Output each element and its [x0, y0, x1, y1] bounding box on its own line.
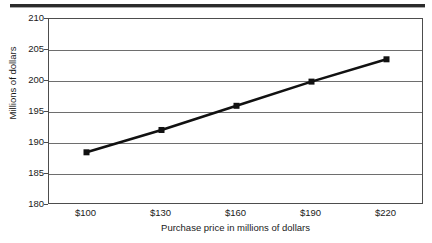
data-point-marker [159, 127, 165, 133]
y-axis-title: Millions of dollars [8, 23, 18, 143]
x-axis-tick-label: $160 [213, 207, 259, 218]
x-axis-tick-label: $100 [63, 207, 109, 218]
y-axis-tick-label: 205 [20, 44, 44, 54]
y-axis-tick-label: 190 [20, 137, 44, 147]
y-axis-tick-label: 180 [20, 199, 44, 209]
x-axis-tick-label: $190 [288, 207, 334, 218]
data-point-marker [84, 149, 90, 155]
y-axis-tick-label: 195 [20, 106, 44, 116]
x-axis-title: Purchase price in millions of dollars [48, 222, 423, 233]
y-axis-tick-label: 210 [20, 13, 44, 23]
data-series-svg [49, 19, 424, 205]
plot-area [48, 18, 423, 204]
chart-figure: Millions of dollars 21020520019519018518… [0, 0, 432, 243]
y-axis-tick-label: 200 [20, 75, 44, 85]
y-axis-tick-label: 185 [20, 168, 44, 178]
data-point-marker [309, 79, 315, 85]
x-axis-tick-label: $130 [138, 207, 184, 218]
data-point-marker [234, 103, 240, 109]
data-point-marker [384, 56, 390, 62]
x-axis-tick-label: $220 [363, 207, 409, 218]
top-horizontal-rule-shadow [10, 7, 425, 8]
